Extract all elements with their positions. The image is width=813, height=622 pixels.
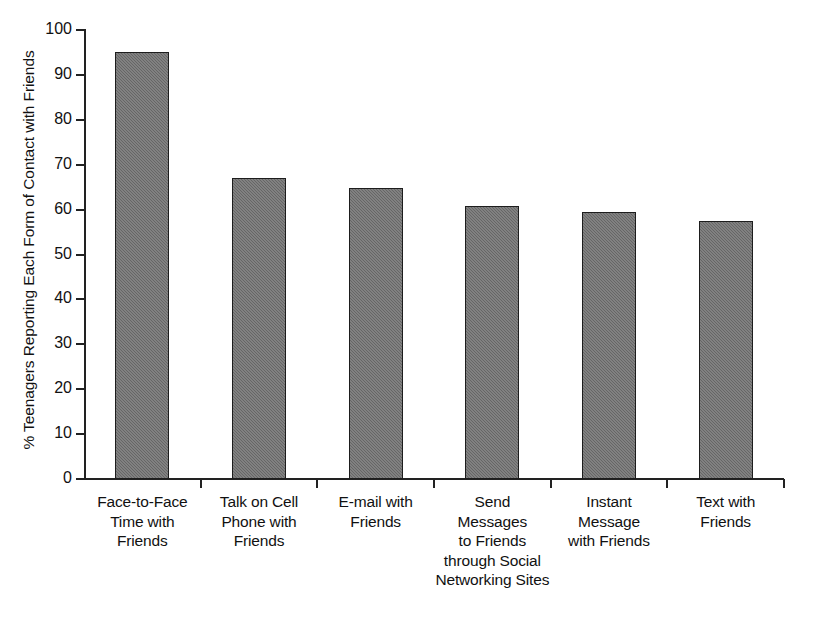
bar-chart: % Teenagers Reporting Each Form of Conta… xyxy=(0,0,813,622)
x-axis-label: Text withFriends xyxy=(661,492,790,531)
y-tick-label: 40 xyxy=(36,289,72,307)
x-axis-label-line: to Friends xyxy=(428,531,557,551)
x-axis-label-line: Networking Sites xyxy=(428,570,557,590)
x-axis-label-line: Instant xyxy=(545,492,674,512)
x-tick-mark xyxy=(433,479,435,488)
x-axis-label-line: through Social xyxy=(428,551,557,571)
x-axis-label-line: Message xyxy=(545,512,674,532)
y-tick-label: 50 xyxy=(36,245,72,263)
x-axis-label-line: Friends xyxy=(311,512,440,532)
x-axis-label-line: Phone with xyxy=(195,512,324,532)
y-tick-label: 10 xyxy=(36,424,72,442)
y-tick-label: 30 xyxy=(36,334,72,352)
bar xyxy=(232,178,286,479)
x-axis-label-line: Friends xyxy=(78,531,207,551)
x-axis-label-line: Friends xyxy=(195,531,324,551)
x-tick-mark xyxy=(550,479,552,488)
x-axis-label: SendMessagesto Friendsthrough SocialNetw… xyxy=(428,492,557,590)
bar xyxy=(349,188,403,479)
y-tick-label: 80 xyxy=(36,110,72,128)
x-tick-mark xyxy=(666,479,668,488)
y-tick-label: 90 xyxy=(36,65,72,83)
x-axis-label-line: Talk on Cell xyxy=(195,492,324,512)
x-axis-label: Face-to-FaceTime withFriends xyxy=(78,492,207,551)
x-axis-label-line: Time with xyxy=(78,512,207,532)
x-axis-label-line: Text with xyxy=(661,492,790,512)
y-tick-label: 70 xyxy=(36,155,72,173)
bar xyxy=(699,221,753,479)
bar xyxy=(582,212,636,479)
x-axis-label-line: E-mail with xyxy=(311,492,440,512)
x-axis-label-line: Face-to-Face xyxy=(78,492,207,512)
x-axis-label: InstantMessagewith Friends xyxy=(545,492,674,551)
x-axis-label: Talk on CellPhone withFriends xyxy=(195,492,324,551)
x-axis-label-line: Send xyxy=(428,492,557,512)
y-tick-label: 20 xyxy=(36,379,72,397)
y-tick-label: 100 xyxy=(36,20,72,38)
y-tick-label: 60 xyxy=(36,200,72,218)
bars-layer xyxy=(84,30,784,479)
x-axis-label-line: with Friends xyxy=(545,531,674,551)
y-tick-label: 0 xyxy=(36,469,72,487)
x-axis-labels: Face-to-FaceTime withFriendsTalk on Cell… xyxy=(84,492,784,617)
x-tick-mark xyxy=(316,479,318,488)
x-axis-label: E-mail withFriends xyxy=(311,492,440,531)
x-axis-label-line: Friends xyxy=(661,512,790,532)
bar xyxy=(115,52,169,479)
x-tick-mark xyxy=(200,479,202,488)
bar xyxy=(465,206,519,479)
x-axis-label-line: Messages xyxy=(428,512,557,532)
x-tick-mark xyxy=(783,479,785,488)
